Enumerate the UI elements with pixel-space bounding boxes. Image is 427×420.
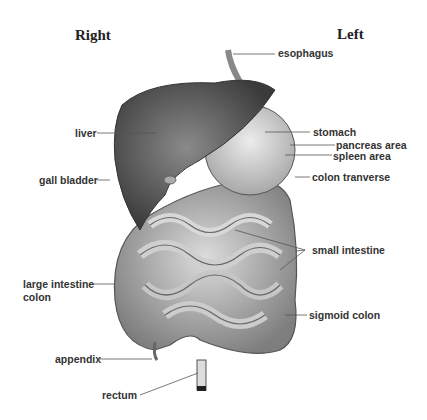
label-gall-bladder: gall bladder <box>39 174 98 186</box>
label-appendix: appendix <box>55 353 101 365</box>
label-esophagus: esophagus <box>278 47 333 59</box>
label-stomach: stomach <box>313 126 356 138</box>
esophagus-shape <box>228 50 240 82</box>
label-colon: colon <box>23 291 51 303</box>
label-large-intestine: large intestine <box>23 278 94 290</box>
label-liver: liver <box>75 127 97 139</box>
label-rectum: rectum <box>102 389 137 401</box>
label-spleen-area: spleen area <box>333 150 391 162</box>
label-colon-transverse: colon tranverse <box>312 171 390 183</box>
label-sigmoid-colon: sigmoid colon <box>309 309 380 321</box>
label-small-intestine: small intestine <box>312 244 385 256</box>
rectum-shape <box>197 360 206 390</box>
